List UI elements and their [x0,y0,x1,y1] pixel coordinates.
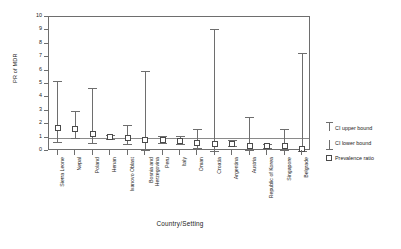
legend-item-prevalence-ratio: Prevalence ratio [322,152,400,167]
prevalence-ratio-marker[interactable] [264,143,270,149]
ci-lower-cap [71,138,80,139]
y-axis-tick-label: 3 [39,107,42,112]
y-axis-tick-label: 9 [39,27,42,32]
x-axis-tick [179,150,180,155]
ci-upper-icon [325,122,334,137]
x-axis-category-label: Sierra Leone [59,157,65,203]
x-axis-tick [92,150,93,155]
legend: CI upper bound CI lower bound Prevalence… [322,122,400,167]
ci-upper-cap [123,125,132,126]
x-axis-category-label: Singapore [286,157,292,203]
ci-lower-cap [123,144,132,145]
x-axis-category-label: Oman [198,157,204,203]
confidence-interval-line [57,81,58,142]
y-axis-tick-label: 10 [36,13,42,18]
x-axis-category-label: Nepal [76,157,82,203]
y-axis-title: PR of MDR [12,53,18,83]
legend-label: Prevalence ratio [335,155,374,162]
prevalence-ratio-marker[interactable] [142,137,148,143]
legend-item-ci-lower: CI lower bound [322,137,400,152]
y-axis-tick-label: 7 [39,53,42,58]
x-axis-tick [214,150,215,155]
prevalence-ratio-marker[interactable] [247,143,253,149]
x-axis-tick [127,150,128,155]
ci-upper-cap [193,129,202,130]
plot-area [48,16,310,150]
y-axis-tick-label: 1 [39,134,42,139]
legend-label: CI upper bound [335,125,372,132]
ci-lower-cap [88,143,97,144]
ci-upper-cap [141,71,150,72]
x-axis-tick [74,150,75,155]
x-axis-tick [249,150,250,155]
prevalence-ratio-marker[interactable] [125,135,131,141]
x-axis-tick [231,150,232,155]
ci-upper-cap [280,129,289,130]
y-axis-tick-label: 4 [39,94,42,99]
legend-item-ci-upper: CI upper bound [322,122,400,137]
ci-upper-cap [53,81,62,82]
ci-upper-cap [245,117,254,118]
x-axis-title: Country/Setting [0,220,360,227]
prevalence-ratio-marker[interactable] [229,141,235,147]
x-axis-tick [266,150,267,155]
y-axis-tick-label: 5 [39,80,42,85]
y-axis-tick-label: 6 [39,67,42,72]
x-axis-tick [109,150,110,155]
x-axis-tick [301,150,302,155]
x-axis-category-label: Ivanovo Oblast [129,157,135,203]
ci-lower-cap [158,143,167,144]
x-axis-tick [162,150,163,155]
x-axis-category-label: Bosnia andHerzegovina [148,157,160,203]
prevalence-ratio-marker[interactable] [55,125,61,131]
y-axis-tick-label: 8 [39,40,42,45]
ci-lower-cap [176,144,185,145]
x-axis-tick [57,150,58,155]
x-axis-category-label: Belgrade [303,157,309,203]
prevalence-ratio-marker[interactable] [160,137,166,143]
x-axis-category-label: Poland [94,157,100,203]
confidence-interval-line [75,111,76,138]
prevalence-ratio-marker[interactable] [72,126,78,132]
y-axis-tick-label: 2 [39,120,42,125]
x-axis-labels: Sierra LeoneNepalPolandHenanIvanovo Obla… [48,157,310,215]
x-axis-tick [196,150,197,155]
x-axis-category-label: Austria [251,157,257,203]
confidence-interval-line [214,29,215,151]
x-axis-category-label: Argentina [233,157,239,203]
x-axis-category-label: Peru [164,157,170,203]
x-axis-category-label: Italy [181,157,187,203]
prevalence-ratio-marker[interactable] [177,138,183,144]
prevalence-ratio-icon [325,152,334,167]
x-axis-category-label: Henan [111,157,117,203]
prevalence-ratio-marker[interactable] [90,131,96,137]
prevalence-ratio-marker[interactable] [194,140,200,146]
x-axis-tick [284,150,285,155]
prevalence-ratio-marker[interactable] [107,134,113,140]
ci-lower-cap [53,142,62,143]
y-axis: 012345678910 [40,16,48,150]
x-axis-ticks [48,150,310,156]
y-axis-tick-label: 0 [39,147,42,152]
prevalence-ratio-marker[interactable] [212,141,218,147]
forest-plot-figure: PR of MDR 012345678910 Sierra LeoneNepal… [0,0,401,249]
prevalence-ratio-marker[interactable] [282,143,288,149]
ci-upper-cap [71,111,80,112]
x-axis-tick [144,150,145,155]
ci-lower-icon [325,137,334,152]
ci-upper-cap [298,53,307,54]
x-axis-category-label: Republic of Korea [268,157,274,203]
legend-label: CI lower bound [335,140,371,147]
confidence-interval-line [302,53,303,151]
ci-upper-cap [88,88,97,89]
x-axis-category-label: Croatia [216,157,222,203]
ci-upper-cap [210,29,219,30]
